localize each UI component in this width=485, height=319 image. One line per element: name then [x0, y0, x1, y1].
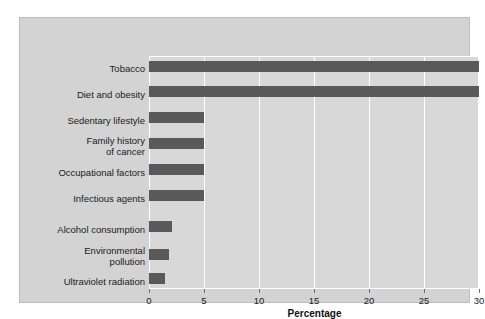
tick-mark-0: [149, 289, 150, 293]
tick-mark-25: [424, 289, 425, 293]
bar-alcohol-consumption: [149, 221, 172, 232]
category-label-tobacco: Tobacco: [110, 63, 145, 74]
tick-label-10: 10: [244, 295, 274, 306]
category-label-ultraviolet-radiation: Ultraviolet radiation: [64, 276, 145, 287]
gridline-30: [479, 56, 480, 289]
category-labels-group: Tobacco Diet and obesity Sedentary lifes…: [44, 56, 145, 288]
bar-occupational-factors: [149, 164, 204, 175]
tick-mark-20: [369, 289, 370, 293]
chart-panel: Tobacco Diet and obesity Sedentary lifes…: [19, 17, 470, 303]
category-label-alcohol-consumption: Alcohol consumption: [57, 224, 145, 235]
category-label-infectious-agents: Infectious agents: [73, 193, 145, 204]
tick-label-25: 25: [409, 295, 439, 306]
bar-infectious-agents: [149, 190, 204, 201]
tick-mark-30: [479, 289, 480, 293]
tick-mark-15: [314, 289, 315, 293]
bar-environmental-pollution: [149, 249, 169, 260]
category-label-diet-and-obesity: Diet and obesity: [77, 89, 145, 100]
category-label-family-history-of-cancer: Family history of cancer: [86, 135, 145, 157]
bar-diet-and-obesity: [149, 86, 479, 97]
bar-ultraviolet-radiation: [149, 273, 165, 284]
tick-mark-10: [259, 289, 260, 293]
tick-label-15: 15: [299, 295, 329, 306]
category-label-environmental-pollution: Environmental pollution: [84, 245, 145, 267]
tick-label-20: 20: [354, 295, 384, 306]
bar-family-history-of-cancer: [149, 138, 204, 149]
bar-tobacco: [149, 61, 479, 72]
tick-label-5: 5: [189, 295, 219, 306]
x-axis-title: Percentage: [149, 308, 480, 319]
tick-label-30: 30: [464, 295, 485, 306]
bar-sedentary-lifestyle: [149, 112, 204, 123]
category-label-sedentary-lifestyle: Sedentary lifestyle: [67, 115, 145, 126]
category-label-occupational-factors: Occupational factors: [58, 167, 145, 178]
tick-mark-5: [204, 289, 205, 293]
tick-label-0: 0: [134, 295, 164, 306]
